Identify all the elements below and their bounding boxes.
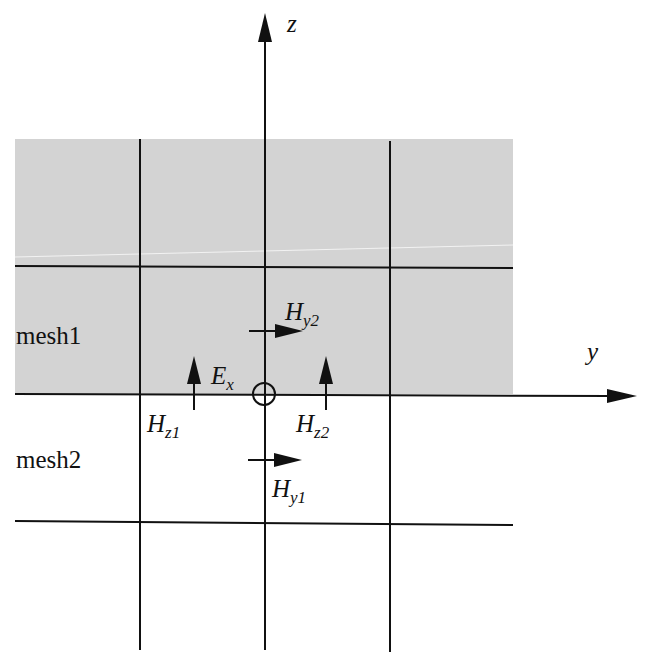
hy1-label: Hy1 xyxy=(271,475,306,507)
yee-grid-diagram: z y mesh1 mesh2 Hy2 Ex Hz1 Hz2 Hy1 xyxy=(0,0,647,666)
z-axis-label: z xyxy=(286,10,297,37)
hz2-label: Hz2 xyxy=(295,410,330,442)
hy1-arrow-icon xyxy=(248,453,302,467)
mesh2-label: mesh2 xyxy=(16,446,81,473)
diagram-canvas: z y mesh1 mesh2 Hy2 Ex Hz1 Hz2 Hy1 xyxy=(0,0,647,666)
y-axis-arrowhead-icon xyxy=(607,389,637,403)
y-axis-label: y xyxy=(584,338,599,365)
z-axis-arrowhead-icon xyxy=(258,13,272,42)
hz1-label: Hz1 xyxy=(146,410,180,442)
mesh1-label: mesh1 xyxy=(16,322,81,349)
